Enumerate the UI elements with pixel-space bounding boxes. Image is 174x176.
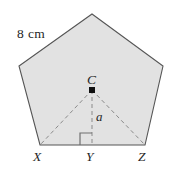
centre-point-dot [89,87,95,93]
vertex-label-z: Z [138,150,146,164]
vertex-label-x: X [33,150,41,164]
vertex-label-y: Y [86,150,94,164]
apothem-label-a: a [96,110,103,123]
pentagon-figure: 8 cm C a X Y Z [0,0,174,176]
side-length-label: 8 cm [17,27,45,41]
centre-label-c: C [87,73,96,87]
